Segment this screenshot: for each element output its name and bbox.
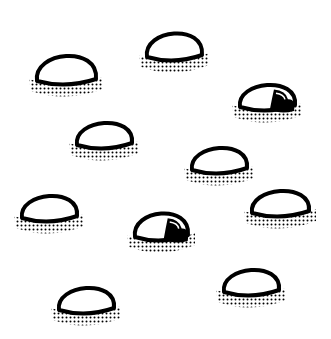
mole-hole[interactable] — [12, 188, 86, 240]
hole-dome-outline — [77, 123, 132, 149]
mole-hole[interactable] — [214, 262, 288, 314]
hole-dome-outline — [192, 148, 247, 174]
mole-hole[interactable] — [27, 47, 105, 103]
hole-dome-outline — [37, 56, 96, 85]
hole-dome-outline — [22, 196, 77, 222]
mole-hole[interactable] — [242, 183, 318, 235]
mole-hole[interactable] — [125, 205, 197, 259]
mole-hole[interactable] — [137, 25, 211, 79]
game-board — [0, 0, 331, 339]
hole-dome-outline — [252, 191, 309, 217]
mole-hole[interactable] — [67, 115, 141, 167]
mole-hole[interactable] — [49, 280, 123, 332]
hole-dome-outline — [59, 288, 114, 314]
mole-hole[interactable] — [230, 77, 304, 129]
hole-dome-outline — [224, 270, 279, 296]
hole-dome-outline — [147, 33, 202, 60]
